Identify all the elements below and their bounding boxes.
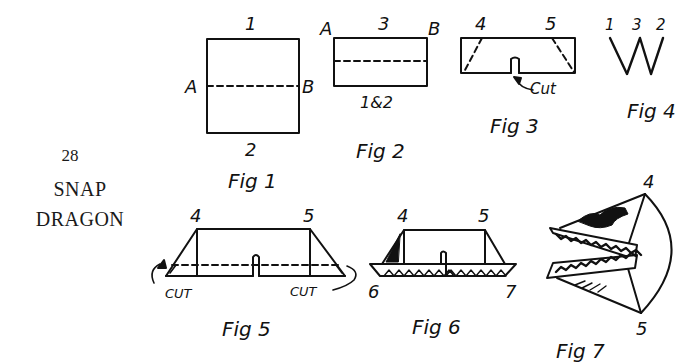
fig1-label-bottom: 2	[245, 139, 256, 160]
fig6-shape	[370, 230, 516, 276]
fig2-label-top: 3	[378, 13, 389, 34]
fig3-shape	[461, 38, 575, 90]
fig3-caption: Fig 3	[490, 114, 539, 138]
fig4-caption: Fig 4	[627, 99, 676, 123]
fig2-label-right: B	[428, 18, 440, 39]
fig7-label-top: 4	[643, 171, 654, 192]
fig5-label-right: 5	[303, 205, 314, 226]
fig7-caption: Fig 7	[556, 339, 605, 363]
fig6-label-bottom-left: 6	[368, 281, 379, 302]
fig6-label-bottom-right: 7	[505, 281, 517, 302]
snap-dragon-diagram: 1 2 A B Fig 1 3 A B 1&2 Fig 2 4 5 Cut Fi…	[0, 0, 690, 364]
fig2-label-left: A	[319, 18, 332, 39]
fig7-dragon	[547, 194, 672, 313]
fig1-label-left: A	[184, 76, 197, 97]
fig3-label-cut: Cut	[530, 80, 557, 98]
fig1-label-right: B	[302, 76, 314, 97]
fig5-trapezoid	[152, 229, 356, 290]
fig5-label-cut-left: CUT	[165, 286, 193, 301]
fig3-label-left: 4	[475, 13, 486, 34]
fig6-label-top-left: 4	[397, 205, 408, 226]
fig5-label-left: 4	[190, 205, 201, 226]
fig4-w-shape	[610, 38, 663, 74]
fig6-label-top-right: 5	[478, 205, 489, 226]
fig4-label-3: 3	[632, 16, 642, 34]
fig5-label-cut-right: CUT	[290, 284, 318, 299]
fig1-square	[207, 39, 299, 133]
fig2-label-bottom: 1&2	[360, 93, 393, 112]
fig3-label-right: 5	[545, 13, 556, 34]
fig4-label-2: 2	[656, 16, 666, 34]
fig1-caption: Fig 1	[228, 169, 277, 193]
fig2-caption: Fig 2	[356, 139, 405, 163]
fig4-label-1: 1	[605, 16, 615, 34]
fig2-rectangle	[334, 38, 427, 86]
fig6-caption: Fig 6	[412, 315, 461, 339]
fig7-label-bottom: 5	[636, 318, 647, 339]
fig5-caption: Fig 5	[222, 317, 271, 341]
fig1-label-top: 1	[245, 13, 256, 34]
